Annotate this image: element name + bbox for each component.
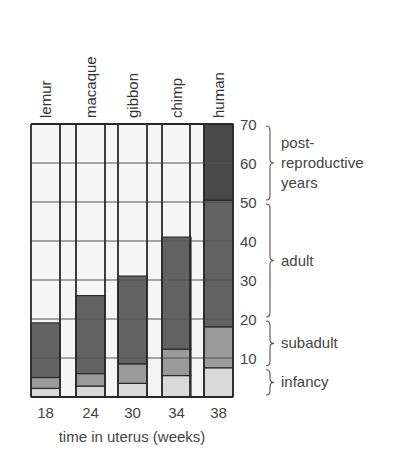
- bar-segment-macaque-adult: [76, 296, 105, 374]
- bar-segment-chimp-adult: [162, 237, 191, 349]
- bracket-icon: [266, 370, 274, 395]
- y-tick-label: 40: [240, 233, 257, 250]
- bar-segment-gibbon-adult: [118, 276, 147, 364]
- species-label-lemur: lemur: [37, 80, 54, 118]
- bar-segment-chimp-infancy: [162, 376, 191, 397]
- bar-segment-lemur-adult: [31, 323, 60, 378]
- bar-segment-human-subadult: [204, 327, 233, 368]
- y-tick-label: 10: [240, 350, 257, 367]
- species-label-chimp: chimp: [168, 78, 185, 118]
- species-label-human: human: [210, 72, 227, 118]
- bar-segment-macaque-infancy: [76, 386, 105, 397]
- stage-brackets: post-reproductiveyearsadultsubadultinfan…: [266, 126, 364, 395]
- bar-segment-human-infancy: [204, 368, 233, 397]
- x-axis-label: time in uterus (weeks): [59, 428, 206, 445]
- stage-label: post-: [281, 134, 314, 151]
- y-tick-label: 30: [240, 272, 257, 289]
- stage-label: years: [281, 174, 318, 191]
- x-tick-label: 34: [168, 404, 185, 421]
- bar-segment-gibbon-infancy: [118, 383, 147, 397]
- bar-segment-chimp-subadult: [162, 349, 191, 376]
- x-axis: 1824303438: [37, 404, 227, 421]
- species-label-macaque: macaque: [82, 56, 99, 118]
- y-tick-label: 70: [240, 116, 257, 133]
- bar-segment-macaque-subadult: [76, 374, 105, 386]
- y-tick-label: 20: [240, 311, 257, 328]
- stage-label: infancy: [281, 373, 329, 390]
- stage-label: subadult: [281, 334, 339, 351]
- bar-segment-human-post-reproductive: [204, 124, 233, 200]
- x-tick-label: 24: [82, 404, 99, 421]
- stage-label: adult: [281, 252, 314, 269]
- bar-segment-gibbon-subadult: [118, 364, 147, 384]
- y-axis: 10203040506070: [240, 116, 257, 367]
- x-tick-label: 18: [37, 404, 54, 421]
- stage-label: reproductive: [281, 154, 364, 171]
- species-label-gibbon: gibbon: [124, 73, 141, 118]
- bar-segment-human-adult: [204, 200, 233, 327]
- bracket-icon: [266, 321, 274, 366]
- x-tick-label: 30: [124, 404, 141, 421]
- bar-segment-lemur-infancy: [31, 388, 60, 397]
- x-tick-label: 38: [210, 404, 227, 421]
- y-tick-label: 60: [240, 155, 257, 172]
- y-tick-label: 50: [240, 194, 257, 211]
- bracket-icon: [266, 126, 274, 200]
- bar-segment-lemur-subadult: [31, 378, 60, 389]
- species-labels: lemurmacaquegibbonchimphuman: [37, 56, 227, 118]
- lifespan-stacked-bar-chart: lemurmacaquegibbonchimphuman 10203040506…: [0, 0, 418, 461]
- bracket-icon: [266, 204, 274, 317]
